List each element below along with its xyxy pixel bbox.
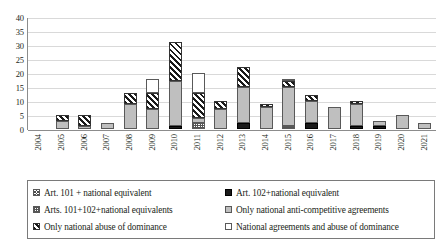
- bar-segment[interactable]: [146, 79, 159, 93]
- y-axis-tick-label: 5: [20, 112, 24, 121]
- x-axis: 2004200520062007200820092010201120122013…: [27, 132, 435, 176]
- bar-slot-2004: [28, 17, 51, 129]
- bar-2010[interactable]: [169, 42, 182, 129]
- x-axis-slot: 2016: [299, 132, 322, 176]
- bar-segment[interactable]: [373, 126, 386, 129]
- bar-slot-2014: [255, 17, 278, 129]
- bar-2012[interactable]: [214, 101, 227, 129]
- bar-segment[interactable]: [305, 101, 318, 123]
- bar-segment[interactable]: [78, 126, 91, 129]
- legend-swatch-white-outline-icon: [225, 223, 232, 230]
- bar-segment[interactable]: [260, 107, 273, 129]
- bar-segment[interactable]: [237, 67, 250, 87]
- bar-slot-2015: [277, 17, 300, 129]
- x-axis-slot: 2007: [95, 132, 118, 176]
- stacked-bar-chart: 4035302520151050 20042005200620072008200…: [0, 0, 445, 250]
- legend-item-art-101[interactable]: Art. 101 + national equivalent: [33, 184, 225, 201]
- bar-segment[interactable]: [328, 107, 341, 129]
- bar-2009[interactable]: [146, 79, 159, 129]
- x-axis-tick-label: 2018: [351, 134, 360, 151]
- bar-segment[interactable]: [282, 87, 295, 126]
- bar-segment[interactable]: [237, 87, 250, 123]
- y-axis-tick-label: 25: [16, 56, 24, 65]
- bar-2014[interactable]: [260, 104, 273, 129]
- legend-label: National agreements and abuse of dominan…: [236, 222, 399, 232]
- bar-segment[interactable]: [214, 101, 227, 109]
- grid-area: [27, 18, 436, 130]
- bar-segment[interactable]: [192, 93, 205, 118]
- bar-2018[interactable]: [350, 101, 363, 129]
- bar-slot-2007: [96, 17, 119, 129]
- bar-2005[interactable]: [56, 115, 69, 129]
- bar-segment[interactable]: [396, 115, 409, 129]
- bar-2013[interactable]: [237, 67, 250, 129]
- bar-slot-2009: [141, 17, 164, 129]
- bar-segment[interactable]: [169, 42, 182, 81]
- x-axis-tick-label: 2004: [34, 134, 43, 151]
- legend-label: Art. 102+national equivalent: [236, 188, 339, 198]
- y-axis-tick-label: 20: [16, 70, 24, 79]
- bar-segment[interactable]: [169, 81, 182, 126]
- legend-row: Only national abuse of dominance Nationa…: [33, 218, 430, 235]
- bar-segment[interactable]: [192, 73, 205, 93]
- x-axis-tick-label: 2011: [193, 134, 202, 150]
- bar-2015[interactable]: [282, 79, 295, 129]
- bar-segment[interactable]: [169, 126, 182, 129]
- bar-2017[interactable]: [328, 107, 341, 129]
- legend-swatch-solid-gray-icon: [225, 206, 232, 213]
- bar-2019[interactable]: [373, 121, 386, 129]
- bar-segment[interactable]: [214, 109, 227, 129]
- x-axis-tick-label: 2016: [306, 134, 315, 151]
- x-axis-tick-label: 2012: [215, 134, 224, 151]
- bar-slot-2021: [413, 17, 436, 129]
- legend-label: Only national abuse of dominance: [44, 222, 167, 232]
- bar-slot-2008: [119, 17, 142, 129]
- bar-segment[interactable]: [237, 123, 250, 129]
- x-axis-slot: 2008: [118, 132, 141, 176]
- x-axis-tick-label: 2005: [57, 134, 66, 151]
- x-axis-tick-label: 2017: [329, 134, 338, 151]
- bar-segment[interactable]: [124, 93, 137, 104]
- x-axis-tick-label: 2006: [79, 134, 88, 151]
- x-axis-slot: 2020: [390, 132, 413, 176]
- legend-item-arts-101-102[interactable]: Arts. 101+102+national equivalents: [33, 201, 225, 218]
- bar-segment[interactable]: [305, 123, 318, 129]
- bar-segment[interactable]: [101, 123, 114, 129]
- legend-item-agreements-and-abuse[interactable]: National agreements and abuse of dominan…: [225, 218, 430, 235]
- bar-2016[interactable]: [305, 95, 318, 129]
- bar-2011[interactable]: [192, 73, 205, 129]
- bar-segment[interactable]: [146, 93, 159, 110]
- bar-segment[interactable]: [418, 123, 431, 129]
- legend-swatch-diagonal-stripes-icon: [33, 223, 40, 230]
- legend-item-national-agreements[interactable]: Only national anti-competitive agreement…: [225, 201, 430, 218]
- bar-segment[interactable]: [146, 109, 159, 129]
- bar-2008[interactable]: [124, 93, 137, 129]
- x-axis-tick-label: 2009: [147, 134, 156, 151]
- bar-segment[interactable]: [350, 104, 363, 126]
- bar-2020[interactable]: [396, 115, 409, 129]
- bar-2021[interactable]: [418, 123, 431, 129]
- bar-2007[interactable]: [101, 123, 114, 129]
- x-axis-slot: 2012: [208, 132, 231, 176]
- bar-slot-2020: [391, 17, 414, 129]
- bar-segment[interactable]: [350, 126, 363, 129]
- bar-segment[interactable]: [124, 104, 137, 129]
- x-axis-tick-label: 2010: [170, 134, 179, 151]
- legend-row: Arts. 101+102+national equivalents Only …: [33, 201, 430, 218]
- legend-label: Art. 101 + national equivalent: [44, 188, 151, 198]
- bar-slot-2010: [164, 17, 187, 129]
- bar-segment[interactable]: [78, 115, 91, 126]
- bar-segment[interactable]: [56, 121, 69, 129]
- chart-legend: Art. 101 + national equivalent Art. 102+…: [27, 180, 435, 239]
- bar-segment[interactable]: [282, 126, 295, 129]
- bar-2006[interactable]: [78, 115, 91, 129]
- x-axis-slot: 2018: [344, 132, 367, 176]
- legend-row: Art. 101 + national equivalent Art. 102+…: [33, 184, 430, 201]
- x-axis-slot: 2014: [254, 132, 277, 176]
- legend-item-art-102[interactable]: Art. 102+national equivalent: [225, 184, 430, 201]
- legend-item-national-abuse[interactable]: Only national abuse of dominance: [33, 218, 225, 235]
- bar-segment[interactable]: [192, 123, 205, 129]
- bar-slot-2011: [187, 17, 210, 129]
- x-axis-slot: 2015: [276, 132, 299, 176]
- x-axis-tick-label: 2015: [283, 134, 292, 151]
